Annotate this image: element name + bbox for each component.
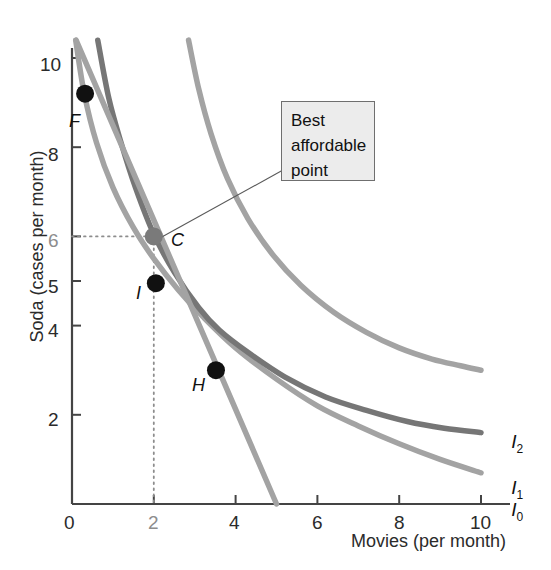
data-point-c xyxy=(145,227,163,245)
x-tick-label-10: 10 xyxy=(470,512,491,534)
callout-line-3: point xyxy=(291,158,374,183)
curves xyxy=(76,40,481,504)
point-label-f: F xyxy=(69,111,80,132)
y-axis-title: Soda (cases per month) xyxy=(27,102,48,392)
x-tick-label-4: 4 xyxy=(229,512,240,534)
best-affordable-point-callout: Best affordable point xyxy=(281,101,375,181)
point-label-i: I xyxy=(136,283,141,304)
point-label-c: C xyxy=(171,230,184,251)
y-tick-label-6: 6 xyxy=(48,230,59,252)
curve-label-i0-sub: 0 xyxy=(516,510,523,524)
x-tick-label-6: 6 xyxy=(312,512,323,534)
y-tick-label-8: 8 xyxy=(48,144,59,166)
point-label-h: H xyxy=(192,375,205,396)
x-axis-title: Movies (per month) xyxy=(351,531,506,552)
callout-line-2: affordable xyxy=(291,133,374,158)
curve-label-i2-sub: 2 xyxy=(516,442,523,456)
callout-line-1: Best xyxy=(291,108,374,133)
data-point-h xyxy=(207,361,225,379)
y-tick-label-4: 4 xyxy=(48,320,59,342)
data-point-f xyxy=(76,85,94,103)
y-tick-label-10: 10 xyxy=(40,54,61,76)
x-tick-label-0: 0 xyxy=(64,512,75,534)
x-tick-label-8: 8 xyxy=(394,512,405,534)
curve-i0 xyxy=(76,40,481,473)
chart-canvas xyxy=(0,0,551,570)
y-tick-label-5: 5 xyxy=(48,276,59,298)
curve-i2 xyxy=(189,40,481,370)
curve-label-i0: I0 xyxy=(490,477,523,546)
curve-budget-line xyxy=(76,40,276,504)
data-point-i xyxy=(147,274,165,292)
x-axis-ticks xyxy=(154,495,481,504)
guide-lines xyxy=(72,236,154,504)
y-tick-label-2: 2 xyxy=(48,409,59,431)
x-tick-label-2: 2 xyxy=(148,512,159,534)
callout-leader-line xyxy=(160,170,283,238)
